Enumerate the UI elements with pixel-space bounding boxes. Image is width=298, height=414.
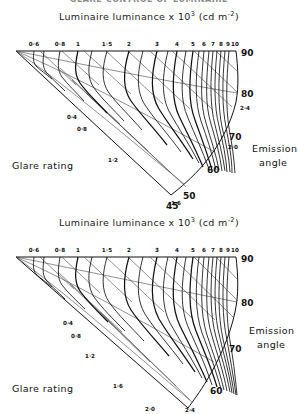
glare-rating-axis-name: Glare rating	[12, 160, 73, 171]
tick-label: 4	[175, 41, 179, 47]
emission-angle-axis-name-line1: Emission	[252, 143, 297, 154]
tick-label: 3	[155, 247, 159, 253]
tick-label: 8	[219, 247, 223, 253]
figure-bottom-tick-labels: 0·6 0·8 1 1·5 2 3 4 5 6 7 8 9 10	[29, 247, 239, 253]
emission-angle-label: 70	[229, 344, 242, 354]
tick-label: 8	[219, 41, 223, 47]
glare-rating-label: 2·4	[240, 105, 250, 111]
clipped-header-text: GLARE CONTROL OF LUMINAIRE	[0, 0, 298, 4]
figure-top-glare-right-labels: 2·4 2·0	[228, 105, 250, 150]
emission-angle-axis-name-line2: angle	[259, 157, 287, 168]
glare-rating-label: 1·6	[113, 383, 123, 389]
figure-top-angle-labels: 90 80 70 60 50 45	[166, 48, 254, 211]
glare-rating-label: 2·4	[185, 407, 195, 413]
glare-rating-label: 0·8	[77, 126, 87, 132]
tick-label: 6	[202, 41, 206, 47]
emission-angle-label: 90	[241, 254, 254, 264]
tick-label: 0·6	[29, 247, 40, 253]
tick-label: 1	[76, 41, 80, 47]
figure-top-tick-labels: 0·6 0·8 1 1·5 2 3 4 5 6 7 8 9 10	[29, 41, 239, 47]
glare-rating-axis-name: Glare rating	[12, 383, 73, 394]
figure-top: Luminaire luminance x 103 (cd m-2) 0·6 0…	[0, 6, 298, 206]
tick-label: 1	[76, 247, 80, 253]
tick-label: 1·5	[102, 247, 113, 253]
figure-bottom-glare-edge-labels: 0·4 0·8 1·2 1·6 2·0 2·4	[63, 320, 195, 413]
tick-label: 2	[127, 41, 131, 47]
figure-top-glare-edge-labels: 0·4 0·8 1·2 1·6	[67, 114, 181, 206]
glare-rating-label: 2·0	[145, 406, 155, 412]
figure-bottom: Luminaire luminance x 103 (cd m-2) 0·6 0…	[0, 212, 298, 414]
figure-top-plot: 0·6 0·8 1 1·5 2 3 4 5 6 7 8 9 10	[0, 6, 298, 206]
glare-rating-label: 1·2	[85, 353, 95, 359]
emission-angle-label: 50	[183, 191, 196, 201]
tick-label: 10	[231, 247, 239, 253]
tick-label: 4	[175, 247, 179, 253]
emission-angle-label: 70	[229, 132, 242, 142]
figure-top-luminance-curves	[33, 51, 235, 173]
glare-rating-label: 1·2	[108, 157, 118, 163]
clipped-header: GLARE CONTROL OF LUMINAIRE	[0, 0, 298, 5]
glare-rating-label: 0·4	[67, 114, 77, 120]
tick-label: 0·8	[55, 41, 66, 47]
tick-label: 6	[202, 247, 206, 253]
emission-angle-label: 80	[241, 298, 254, 308]
emission-angle-axis-name-line2: angle	[257, 339, 285, 350]
tick-label: 9	[226, 41, 230, 47]
glare-rating-label: 2·0	[228, 144, 238, 150]
glare-rating-label: 1·6	[171, 200, 181, 206]
figure-top-frame	[16, 51, 238, 195]
tick-label: 7	[211, 247, 215, 253]
figure-page: GLARE CONTROL OF LUMINAIRE Luminaire lum…	[0, 0, 298, 414]
emission-angle-label: 80	[241, 89, 254, 99]
glare-rating-label: 0·4	[63, 320, 73, 326]
emission-angle-label: 90	[241, 48, 254, 58]
tick-label: 2	[127, 247, 131, 253]
figure-bottom-plot: 0·6 0·8 1 1·5 2 3 4 5 6 7 8 9 10	[0, 212, 298, 414]
tick-label: 7	[211, 41, 215, 47]
tick-label: 3	[155, 41, 159, 47]
tick-label: 10	[231, 41, 239, 47]
tick-label: 0·6	[29, 41, 40, 47]
emission-angle-label: 60	[210, 386, 223, 396]
tick-label: 1·5	[102, 41, 113, 47]
emission-angle-axis-name-line1: Emission	[249, 325, 294, 336]
tick-label: 9	[226, 247, 230, 253]
tick-label: 5	[191, 41, 195, 47]
figure-bottom-angle-lines	[16, 257, 237, 402]
glare-rating-label: 0·8	[71, 333, 81, 339]
tick-label: 0·8	[55, 247, 66, 253]
tick-label: 5	[191, 247, 195, 253]
emission-angle-label: 60	[207, 165, 220, 175]
